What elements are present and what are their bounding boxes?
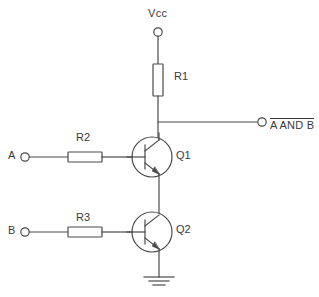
vcc-terminal-circle[interactable] (154, 28, 162, 36)
label-input-a: A (8, 150, 15, 161)
label-r1: R1 (174, 71, 188, 82)
resistor-r3-body[interactable] (68, 227, 102, 237)
label-r2: R2 (76, 132, 90, 143)
label-q2: Q2 (176, 224, 191, 235)
label-q1: Q1 (176, 150, 191, 161)
schematic-svg (0, 0, 319, 297)
label-r3: R3 (76, 212, 90, 223)
label-vcc: Vcc (148, 8, 167, 19)
label-output-text: A AND B (270, 118, 314, 131)
input-b-terminal-circle[interactable] (21, 228, 29, 236)
resistor-r1-body[interactable] (153, 64, 163, 96)
input-a-terminal-circle[interactable] (21, 153, 29, 161)
label-output: A AND B (270, 118, 314, 131)
circuit-diagram-canvas: Vcc R1 R2 R3 Q1 Q2 A B A AND B (0, 0, 319, 297)
label-input-b: B (8, 225, 15, 236)
ground-symbol (144, 277, 174, 285)
resistor-r2-body[interactable] (68, 152, 102, 162)
output-terminal-circle[interactable] (258, 118, 266, 126)
